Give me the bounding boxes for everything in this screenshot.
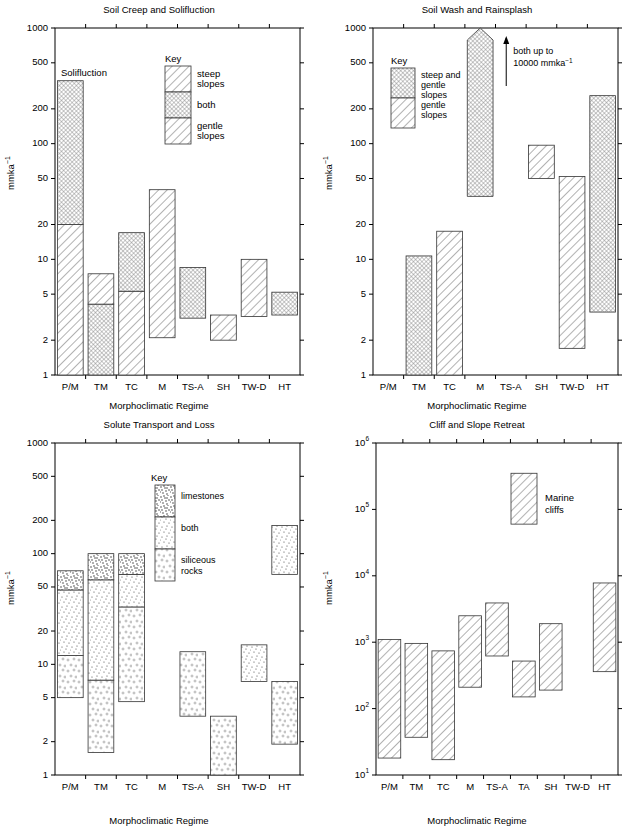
bar-segment: [211, 315, 237, 340]
x-tick-label: P/M: [62, 381, 79, 392]
bar-segment: [88, 554, 114, 580]
svg-text:10: 10: [37, 658, 48, 669]
svg-text:100: 100: [32, 547, 48, 558]
bar-segment: [119, 607, 145, 702]
chart-panel-cliff-retreat: Cliff and Slope Retreat mmka−1 Morphocli…: [318, 415, 636, 830]
svg-text:100: 100: [32, 137, 48, 148]
chart-svg-solute-transport: 1251020501002005001000P/MTMTCMTS-ASHTW-D…: [0, 415, 318, 830]
svg-text:500: 500: [350, 56, 366, 67]
figure-root: Soil Creep and Solifluction mmka−1 Morph…: [0, 0, 636, 830]
legend-title: Key: [165, 53, 182, 64]
x-tick-label: TS-A: [182, 381, 204, 392]
x-axis-label-3: Morphoclimatic Regime: [0, 815, 318, 826]
x-tick-label: M: [476, 381, 484, 392]
legend-swatch: [155, 549, 175, 581]
bar-segment: [119, 233, 145, 292]
svg-text:20: 20: [37, 218, 48, 229]
bar-segment: [180, 652, 206, 716]
bar-segment: [405, 643, 428, 737]
svg-text:50: 50: [355, 172, 366, 183]
x-tick-label: M: [466, 781, 474, 792]
chart-panel-soil-creep: Soil Creep and Solifluction mmka−1 Morph…: [0, 0, 318, 415]
legend-label: both: [197, 99, 216, 110]
bar-segment: [437, 231, 463, 375]
legend-label: slopes: [197, 78, 225, 89]
y-axis-label-3: mmka−1: [4, 571, 16, 605]
bar-segment: [57, 571, 83, 590]
bar-segment: [241, 645, 267, 682]
chart-title-solute-transport: Solute Transport and Loss: [0, 419, 318, 430]
chart-title-soil-wash: Soil Wash and Rainsplash: [318, 4, 636, 15]
svg-text:1: 1: [361, 369, 366, 380]
y-axis-label-2: mmka−1: [322, 156, 334, 190]
bar-segment: [432, 651, 455, 760]
x-tick-label: TC: [437, 781, 450, 792]
svg-text:100: 100: [350, 137, 366, 148]
x-axis-label-1: Morphoclimatic Regime: [0, 400, 318, 411]
chart-svg-cliff-retreat: 101102103104105106P/MTMTCMTS-ATASHTW-DHT…: [318, 415, 636, 830]
chart-svg-soil-wash: 1251020501002005001000P/MTMTCMTS-ASHTW-D…: [318, 0, 636, 415]
x-tick-label: P/M: [380, 381, 397, 392]
x-tick-label: TM: [409, 781, 423, 792]
svg-text:2: 2: [43, 735, 48, 746]
svg-text:200: 200: [32, 514, 48, 525]
bar-segment: [88, 580, 114, 680]
x-tick-label: SH: [217, 781, 230, 792]
bar-segment: [593, 583, 616, 672]
x-tick-label: HT: [278, 781, 291, 792]
svg-text:5: 5: [43, 691, 48, 702]
svg-text:10: 10: [355, 253, 366, 264]
svg-text:2: 2: [361, 334, 366, 345]
bar-segment: [513, 661, 536, 697]
x-tick-label: TW-D: [560, 381, 585, 392]
bar-segment: [57, 656, 83, 698]
legend-label: both: [181, 523, 199, 533]
svg-text:200: 200: [350, 102, 366, 113]
bar-segment: [119, 291, 145, 375]
legend-swatch: [165, 118, 191, 144]
legend-swatch: [391, 98, 415, 128]
svg-text:104: 104: [355, 568, 370, 581]
x-tick-label: TW-D: [242, 781, 267, 792]
x-tick-label: TM: [94, 781, 108, 792]
svg-text:500: 500: [32, 56, 48, 67]
bar-segment: [467, 28, 493, 196]
x-tick-label: TM: [412, 381, 426, 392]
legend-label: gentle: [421, 80, 446, 90]
solifluction-label: Solifluction: [61, 67, 107, 78]
bar-segment: [272, 681, 298, 744]
bar-segment: [88, 304, 114, 375]
legend-label: limestones: [181, 491, 225, 501]
bar-segment: [459, 616, 482, 687]
x-tick-label: P/M: [62, 781, 79, 792]
x-tick-label: TA: [518, 781, 530, 792]
svg-text:50: 50: [37, 580, 48, 591]
bar-segment: [272, 292, 298, 315]
svg-text:1: 1: [43, 769, 48, 780]
x-tick-label: TS-A: [486, 781, 508, 792]
x-tick-label: TS-A: [500, 381, 522, 392]
svg-text:10: 10: [37, 253, 48, 264]
svg-text:102: 102: [355, 700, 370, 713]
legend-swatch: [155, 485, 175, 517]
x-tick-label: SH: [535, 381, 548, 392]
legend-title: Key: [151, 472, 168, 483]
x-tick-label: TC: [125, 781, 138, 792]
svg-text:20: 20: [37, 625, 48, 636]
chart-svg-soil-creep: 1251020501002005001000P/MTMTCMTS-ASHTW-D…: [0, 0, 318, 415]
x-tick-label: TS-A: [182, 781, 204, 792]
legend-label: siliceous: [181, 555, 216, 565]
legend-swatch-marine-cliffs: [511, 473, 537, 524]
svg-text:1000: 1000: [345, 22, 366, 33]
x-tick-label: TW-D: [242, 381, 267, 392]
bar-segment: [119, 554, 145, 575]
bar-segment: [241, 259, 267, 316]
y-axis-label-1: mmka−1: [4, 156, 16, 190]
svg-text:20: 20: [355, 218, 366, 229]
chart-title-cliff-retreat: Cliff and Slope Retreat: [318, 419, 636, 430]
bar-segment: [57, 590, 83, 656]
bar-segment: [486, 603, 509, 656]
svg-text:106: 106: [355, 435, 370, 448]
bar-segment: [559, 177, 585, 349]
svg-text:1000: 1000: [27, 22, 48, 33]
